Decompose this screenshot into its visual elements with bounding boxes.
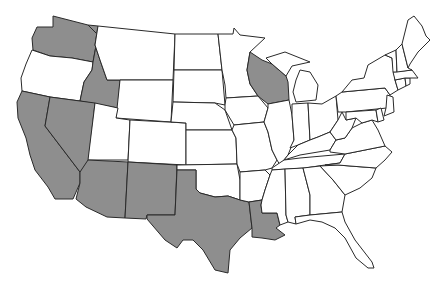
state-rhode-island[interactable] — [405, 78, 410, 86]
state-south-dakota[interactable] — [173, 70, 225, 105]
state-iowa[interactable] — [225, 96, 268, 125]
state-north-dakota[interactable] — [174, 34, 222, 70]
state-kansas[interactable] — [186, 130, 237, 165]
state-montana[interactable] — [95, 26, 175, 80]
state-delaware[interactable] — [376, 108, 384, 122]
us-states-map — [0, 0, 441, 289]
state-arizona[interactable] — [76, 160, 128, 218]
state-wyoming[interactable] — [116, 80, 173, 122]
map-caption — [0, 282, 441, 289]
state-colorado[interactable] — [128, 120, 186, 165]
state-florida[interactable] — [295, 212, 374, 268]
state-new-mexico[interactable] — [125, 162, 177, 219]
state-new-york[interactable] — [342, 55, 398, 95]
state-maine[interactable] — [402, 16, 430, 68]
